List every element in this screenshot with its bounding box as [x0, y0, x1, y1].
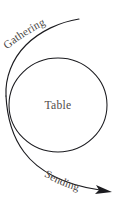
- spiral-diagram-svg: Gathering Sending Table: [0, 0, 121, 206]
- sending-label: Sending: [43, 167, 82, 192]
- table-label: Table: [44, 99, 71, 112]
- diagram-canvas: Gathering Sending Table: [0, 0, 121, 206]
